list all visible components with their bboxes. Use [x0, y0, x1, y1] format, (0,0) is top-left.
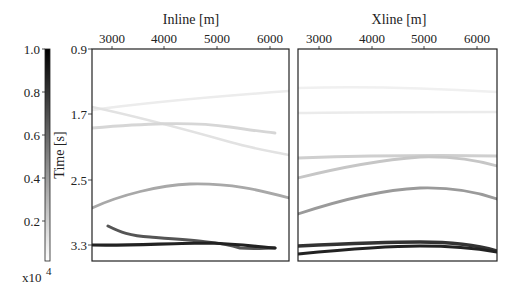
xline-horizon-2: [298, 112, 497, 113]
xline-horizon-1: [298, 87, 497, 92]
inline-panel-title: Inline [m]: [163, 12, 219, 27]
inline-horizon-4: [92, 184, 289, 208]
inline-plot-frame: [92, 49, 289, 261]
xline-panel: Xline [m] 3000 4000 5000 6000: [298, 12, 497, 261]
inline-x-tick-5000: 5000: [204, 31, 230, 46]
inline-x-tick-6000: 6000: [257, 31, 283, 46]
xline-x-tick-5000: 5000: [411, 31, 437, 46]
colorbar-exponent: 4: [46, 265, 52, 277]
inline-horizons: [92, 91, 289, 248]
xline-horizon-5: [298, 188, 497, 214]
colorbar-tick-0-2: 0.2: [24, 214, 40, 229]
xline-x-tick-4000: 4000: [359, 31, 385, 46]
inline-x-tick-3000: 3000: [99, 31, 125, 46]
colorbar: 1.0 0.8 0.6 0.4 0.2 x10 4: [22, 42, 52, 285]
inline-horizon-1: [92, 91, 289, 110]
xline-horizon-4: [298, 157, 497, 178]
xline-x-tick-6000: 6000: [464, 31, 490, 46]
xline-horizon-7: [298, 246, 497, 254]
colorbar-tick-0-8: 0.8: [24, 85, 40, 100]
y-axis-label: Time [s]: [52, 131, 67, 178]
y-tick-3-3: 3.3: [71, 238, 87, 253]
colorbar-tick-0-4: 0.4: [24, 171, 41, 186]
colorbar-gradient: [45, 49, 50, 261]
y-axis-ticks: 0.9 1.7 2.5 3.3: [71, 42, 92, 253]
colorbar-tick-0-6: 0.6: [24, 128, 41, 143]
xline-x-tick-3000: 3000: [306, 31, 332, 46]
y-tick-0-9: 0.9: [71, 42, 87, 57]
xline-horizon-3: [298, 156, 497, 158]
colorbar-multiplier: x10: [22, 270, 42, 285]
colorbar-tick-1-0: 1.0: [24, 42, 40, 57]
xline-panel-title: Xline [m]: [372, 12, 427, 27]
inline-panel: Inline [m] 3000 4000 5000 6000: [92, 12, 289, 261]
y-tick-2-5: 2.5: [71, 173, 87, 188]
seismic-horizon-figure: 1.0 0.8 0.6 0.4 0.2 x10 4 Time [s] 0.9 1…: [0, 0, 515, 298]
xline-horizons: [298, 87, 497, 254]
y-tick-1-7: 1.7: [71, 107, 88, 122]
inline-x-tick-4000: 4000: [151, 31, 177, 46]
